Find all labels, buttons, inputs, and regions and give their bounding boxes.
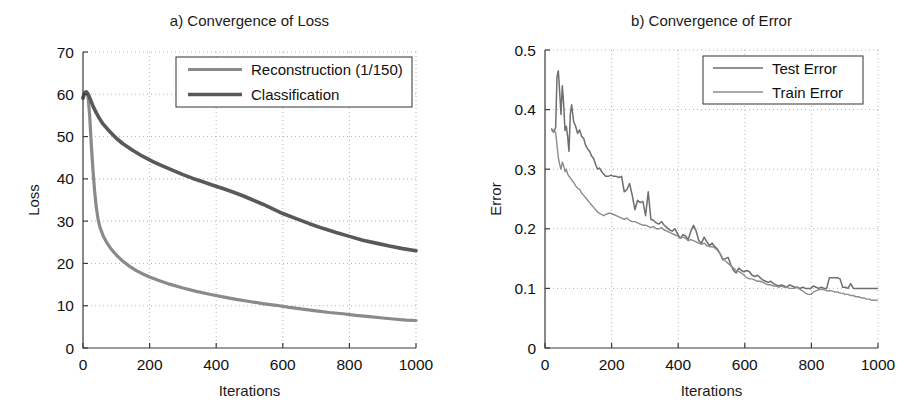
y-tick-label: 0.3 xyxy=(514,161,536,178)
x-tick-label: 1000 xyxy=(861,356,896,373)
y-tick-label: 0.4 xyxy=(514,101,536,118)
chart-title: b) Convergence of Error xyxy=(631,12,792,29)
y-tick-label: 0 xyxy=(65,340,74,357)
x-tick-label: 200 xyxy=(137,356,163,373)
x-tick-label: 400 xyxy=(665,356,691,373)
y-tick-label: 40 xyxy=(57,170,75,187)
y-tick-label: 50 xyxy=(57,128,75,145)
y-tick-label: 60 xyxy=(57,86,75,103)
y-tick-label: 30 xyxy=(57,213,75,230)
x-tick-label: 0 xyxy=(79,356,88,373)
y-tick-label: 0.5 xyxy=(514,42,536,59)
legend-label-2: Classification xyxy=(251,86,339,103)
x-tick-label: 200 xyxy=(599,356,625,373)
y-axis-label: Loss xyxy=(25,184,42,216)
legend-label-2: Train Error xyxy=(772,84,843,101)
x-tick-label: 0 xyxy=(541,356,550,373)
legend-label-1: Test Error xyxy=(772,60,837,77)
x-tick-label: 1000 xyxy=(399,356,434,373)
chart-b-svg: b) Convergence of Error00.10.20.30.40.50… xyxy=(459,0,918,418)
chart-legend: Test ErrorTrain Error xyxy=(703,56,863,104)
series-group xyxy=(83,92,416,321)
y-tick-label: 20 xyxy=(57,255,75,272)
x-tick-label: 800 xyxy=(798,356,824,373)
y-tick-label: 70 xyxy=(57,44,75,61)
x-tick-label: 800 xyxy=(336,356,362,373)
legend-label-1: Reconstruction (1/150) xyxy=(251,61,403,78)
y-axis-label: Error xyxy=(487,182,504,215)
y-tick-label: 0.2 xyxy=(514,220,536,237)
x-tick-label: 400 xyxy=(203,356,229,373)
chart-a-svg: a) Convergence of Loss010203040506070020… xyxy=(0,0,459,418)
x-axis-label: Iterations xyxy=(681,382,743,399)
panel-convergence-of-error: b) Convergence of Error00.10.20.30.40.50… xyxy=(459,0,918,418)
x-tick-label: 600 xyxy=(270,356,296,373)
y-tick-label: 0.1 xyxy=(514,280,536,297)
y-tick-label: 10 xyxy=(57,297,75,314)
y-tick-label: 0 xyxy=(527,340,536,357)
series-line-classification xyxy=(83,92,416,251)
series-line-reconstruction-1-150 xyxy=(83,92,416,320)
x-axis-label: Iterations xyxy=(219,382,281,399)
chart-legend: Reconstruction (1/150)Classification xyxy=(176,57,412,107)
series-group xyxy=(552,71,878,300)
chart-title: a) Convergence of Loss xyxy=(170,12,329,29)
series-line-train-error xyxy=(552,129,878,301)
x-tick-label: 600 xyxy=(732,356,758,373)
figure-container: a) Convergence of Loss010203040506070020… xyxy=(0,0,918,418)
panel-convergence-of-loss: a) Convergence of Loss010203040506070020… xyxy=(0,0,459,418)
